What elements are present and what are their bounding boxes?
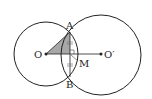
label-B: B bbox=[66, 79, 73, 90]
point-O-dot bbox=[45, 53, 48, 56]
intersecting-circles-diagram: O O′ A B M bbox=[0, 0, 152, 99]
label-M: M bbox=[79, 58, 89, 69]
label-A: A bbox=[65, 20, 74, 31]
right-angle-marker bbox=[70, 50, 74, 54]
label-O-prime: O′ bbox=[104, 49, 115, 60]
M-leader-line bbox=[71, 55, 78, 61]
point-O-prime-dot bbox=[100, 53, 103, 56]
label-O: O bbox=[34, 49, 42, 60]
